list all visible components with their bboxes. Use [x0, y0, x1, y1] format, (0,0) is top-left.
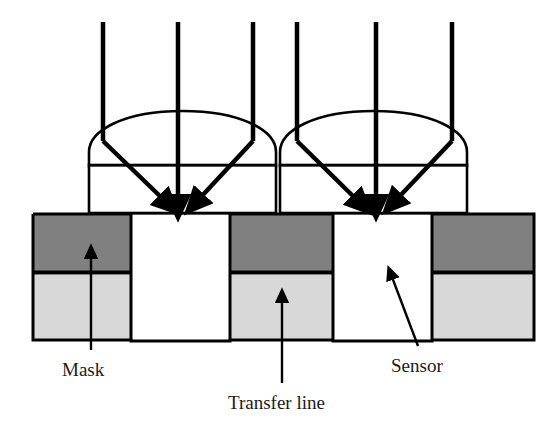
left-lens-dome [89, 111, 276, 166]
right-lens [280, 111, 467, 213]
transfer-band-segment-right [432, 275, 534, 340]
substrate-slab [33, 213, 534, 341]
right-lens-body [280, 165, 467, 213]
mask-band-segment-right [432, 214, 534, 271]
mask-band-segment-middle [230, 214, 333, 271]
transfer-band-segment-left [33, 275, 131, 340]
transfer-line-label: Transfer line [228, 392, 325, 413]
mask-band-segment-left [33, 214, 131, 271]
left-lens [89, 111, 276, 213]
sensor-aperture-right [333, 213, 432, 341]
figure-root: Mask Sensor Transfer line [0, 0, 555, 434]
callout-labels: Mask Sensor Transfer line [62, 355, 443, 413]
left-lens-body [89, 165, 276, 213]
sensor-aperture-left [131, 213, 230, 341]
mask-label: Mask [62, 359, 105, 380]
diagram-canvas: Mask Sensor Transfer line [0, 0, 555, 434]
sensor-label: Sensor [391, 355, 443, 376]
